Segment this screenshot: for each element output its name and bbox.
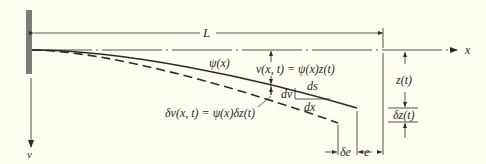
length-label: L (202, 25, 210, 40)
beam-deflection-diagram: L x v ψ(x) v(x, t) = ψ(x)z(t) δv(x, t) =… (0, 0, 486, 164)
virtual-displacement-leader (258, 96, 271, 107)
z-dimension (388, 52, 418, 138)
reference-lines (338, 28, 383, 155)
delta-e-label: δe (340, 145, 352, 159)
shape-function-label: ψ(x) (209, 56, 230, 70)
dx-label: dx (304, 100, 316, 114)
x-axis-label: x (464, 43, 471, 57)
delta-z-label: δz(t) (393, 108, 415, 122)
ds-label: ds (307, 79, 318, 93)
dv-label: dv (281, 87, 293, 101)
v-axis-label: v (27, 148, 32, 160)
fixed-wall (26, 10, 32, 74)
displacement-label: v(x, t) = ψ(x)z(t) (256, 62, 335, 76)
virtual-displacement-label: δv(x, t) = ψ(x)δz(t) (165, 106, 255, 120)
z-label: z(t) (395, 73, 412, 87)
e-label: e (364, 145, 370, 159)
